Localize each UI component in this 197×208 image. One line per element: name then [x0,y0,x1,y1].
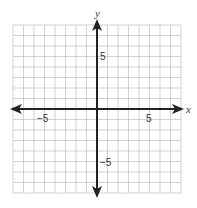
y-tick-label-neg5: −5 [100,157,112,168]
x-tick-label-pos5: 5 [146,113,152,124]
y-tick-label-pos5: 5 [100,51,106,62]
y-axis-label: y [94,7,100,19]
x-axis-label: x [185,103,191,115]
coordinate-plane: x y −5 5 5 −5 [0,0,197,208]
x-tick-label-neg5: −5 [37,113,49,124]
